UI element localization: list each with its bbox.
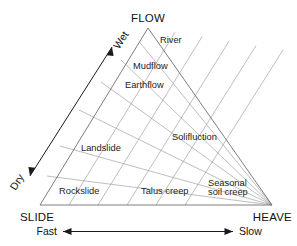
axis-label-wet: Wet (111, 29, 131, 51)
field-label-landslide: Landslide (81, 143, 121, 153)
arrow-head-dry (28, 167, 35, 176)
fast-slow-axis-arrow (63, 228, 233, 235)
axis-label-fast: Fast (37, 225, 58, 237)
wet-dry-axis-arrow (28, 47, 113, 176)
vertex-label-slide: SLIDE (20, 211, 54, 223)
arrow-head-slow (225, 228, 234, 235)
field-label-rockslide: Rockslide (59, 186, 99, 196)
vertex-label-flow: FLOW (131, 12, 165, 24)
field-label-river: River (160, 35, 182, 45)
field-label-talus-creep: Talus creep (141, 186, 189, 196)
arrow-head-fast (63, 228, 72, 235)
ternary-diagram: FLOW SLIDE HEAVE Wet Dry Fast Slow River… (0, 0, 297, 246)
field-label-soil-creep: soil creep (208, 187, 248, 197)
field-label-earthflow: Earthflow (125, 80, 164, 90)
arrow-head-wet (107, 47, 114, 56)
vertex-label-heave: HEAVE (253, 211, 292, 223)
field-label-solifluction: Solifluction (172, 132, 217, 142)
axis-label-dry: Dry (7, 171, 26, 192)
ternary-diagram-canvas: FLOW SLIDE HEAVE Wet Dry Fast Slow River… (0, 0, 297, 246)
field-label-mudflow: Mudflow (133, 61, 168, 71)
axis-label-slow: Slow (239, 225, 262, 237)
